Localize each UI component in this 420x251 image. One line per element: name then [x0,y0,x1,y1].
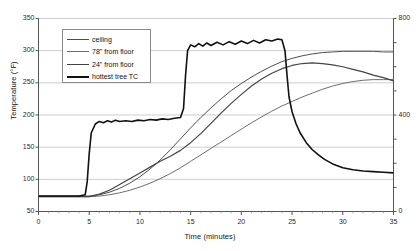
y-tick-label-50: 50 [13,207,35,214]
y-tick-label-300: 300 [13,46,35,53]
x-tick-label-15: 15 [180,218,202,225]
legend-swatch-hottest-tree-tc [67,76,89,78]
legend-label-ceiling: ceiling [92,36,112,43]
y-right-tick-label-400: 400 [399,111,420,118]
x-axis-title: Time (minutes) [0,232,420,241]
x-tick-label-25: 25 [281,218,303,225]
legend-item-ceiling: ceiling [67,33,147,46]
y-tick-label-100: 100 [13,175,35,182]
legend-item-78in-from-floor: 78" from floor [67,46,147,59]
x-tick-label-5: 5 [78,218,100,225]
y-tick-label-250: 250 [13,78,35,85]
legend-swatch-78in-from-floor [67,51,89,52]
legend-label-78in-from-floor: 78" from floor [92,48,134,55]
chart-legend: ceiling 78" from floor 24" from floor ho… [62,29,151,83]
legend-item-24in-from-floor: 24" from floor [67,58,147,71]
legend-label-24in-from-floor: 24" from floor [92,61,134,68]
y-tick-label-350: 350 [13,14,35,21]
x-tick-label-0: 0 [28,218,50,225]
temperature-time-chart: Temperature (°F) Time (minutes) 50100150… [0,0,420,251]
x-tick-label-20: 20 [230,218,252,225]
x-tick-label-10: 10 [129,218,151,225]
y-tick-label-150: 150 [13,143,35,150]
y-tick-label-200: 200 [13,111,35,118]
y-right-tick-label-0: 0 [399,207,420,214]
y-right-tick-label-800: 800 [399,14,420,21]
legend-label-hottest-tree-tc: hottest tree TC [92,73,138,80]
legend-item-hottest-tree-tc: hottest tree TC [67,71,147,84]
legend-swatch-24in-from-floor [67,64,89,65]
legend-swatch-ceiling [67,39,89,40]
x-tick-label-30: 30 [332,218,354,225]
x-tick-label-35: 35 [383,218,405,225]
